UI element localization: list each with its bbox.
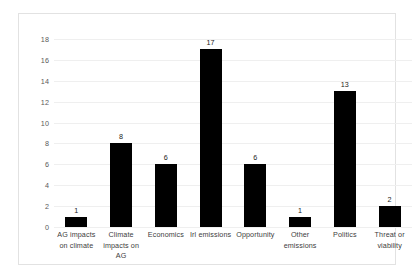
bar-slot-other-emissions: 1 [278, 39, 323, 227]
ytick-label-4: 4 [45, 181, 49, 190]
bar-other-emissions[interactable] [289, 217, 311, 227]
cat-label-opportunity: Opportunity [233, 230, 278, 241]
bar-threat-or-viability[interactable] [379, 206, 401, 227]
category-axis: AG impacts on climate Climate impacts on… [54, 230, 412, 274]
bar-slot-ag-impacts-on-climate: 1 [54, 39, 99, 227]
cat-label-line: Climate [99, 230, 144, 241]
bar-slot-irl-emissions: 17 [188, 39, 233, 227]
ytick-label-10: 10 [41, 118, 49, 127]
plot-frame: 18 16 14 12 10 8 6 4 2 0 1 [18, 13, 396, 265]
ytick-label-14: 14 [41, 76, 49, 85]
cat-label-line: Opportunity [233, 230, 278, 241]
ytick-label-6: 6 [45, 160, 49, 169]
cat-label-line: AG [99, 251, 144, 262]
gridline-0 [54, 227, 412, 228]
bar-chart-figure: 18 16 14 12 10 8 6 4 2 0 1 [0, 0, 417, 274]
ytick-label-0: 0 [45, 223, 49, 232]
bar-value-politics: 13 [341, 80, 349, 89]
bar-value-threat-or-viability: 2 [388, 195, 392, 204]
bar-slot-politics: 13 [323, 39, 368, 227]
cat-label-climate-impacts-on-ag: Climate impacts on AG [99, 230, 144, 262]
cat-label-line: AG impacts [54, 230, 99, 241]
bar-slot-climate-impacts-on-ag: 8 [99, 39, 144, 227]
bar-ag-impacts-on-climate[interactable] [65, 217, 87, 227]
cat-label-economics: Economics [144, 230, 189, 241]
bar-economics[interactable] [155, 164, 177, 227]
bar-climate-impacts-on-ag[interactable] [110, 143, 132, 227]
cat-label-other-emissions: Other emissions [278, 230, 323, 251]
bar-slot-opportunity: 6 [233, 39, 278, 227]
bar-slot-economics: 6 [144, 39, 189, 227]
ytick-label-2: 2 [45, 202, 49, 211]
cat-label-politics: Politics [323, 230, 368, 241]
cat-label-irl-emissions: Irl emissions [188, 230, 233, 241]
bar-politics[interactable] [334, 91, 356, 227]
cat-label-line: Other [278, 230, 323, 241]
bar-value-other-emissions: 1 [298, 206, 302, 215]
ytick-label-16: 16 [41, 55, 49, 64]
bar-slot-threat-or-viability: 2 [367, 39, 412, 227]
ytick-label-18: 18 [41, 35, 49, 44]
bar-value-climate-impacts-on-ag: 8 [119, 132, 123, 141]
ytick-label-12: 12 [41, 97, 49, 106]
cat-label-line: emissions [278, 241, 323, 252]
cat-label-line: Economics [144, 230, 189, 241]
bar-opportunity[interactable] [244, 164, 266, 227]
bar-value-economics: 6 [164, 153, 168, 162]
cat-label-line: Irl emissions [188, 230, 233, 241]
cat-label-ag-impacts-on-climate: AG impacts on climate [54, 230, 99, 251]
bar-value-opportunity: 6 [253, 153, 257, 162]
cat-label-line: Politics [323, 230, 368, 241]
bar-value-ag-impacts-on-climate: 1 [74, 206, 78, 215]
plot-area: 18 16 14 12 10 8 6 4 2 0 1 [54, 39, 412, 227]
cat-label-line: impacts on [99, 241, 144, 252]
ytick-label-8: 8 [45, 139, 49, 148]
cat-label-line: Threat or [367, 230, 412, 241]
bar-value-irl-emissions: 17 [207, 38, 215, 47]
cat-label-line: on climate [54, 241, 99, 252]
cat-label-line: viability [367, 241, 412, 252]
cat-label-threat-or-viability: Threat or viability [367, 230, 412, 251]
bar-irl-emissions[interactable] [200, 49, 222, 227]
